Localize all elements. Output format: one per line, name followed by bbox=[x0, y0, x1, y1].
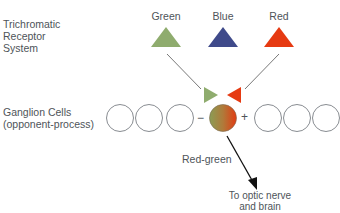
receptor-triangle-red bbox=[264, 27, 294, 47]
ganglion-cell bbox=[167, 105, 194, 132]
ganglion-cell bbox=[255, 105, 282, 132]
excite-triangle-red bbox=[227, 87, 241, 103]
connector-green bbox=[167, 54, 201, 89]
ganglion-cell bbox=[284, 105, 311, 132]
red-green-label: Red-green bbox=[182, 153, 232, 165]
diagram-canvas bbox=[0, 0, 340, 213]
receptor-triangle-green bbox=[151, 27, 181, 47]
output-label-line: and brain bbox=[215, 201, 305, 212]
receptor-triangle-blue bbox=[208, 27, 238, 47]
red-green-ganglion-cell bbox=[210, 105, 237, 132]
output-label-line: To optic nerve bbox=[215, 190, 305, 201]
ganglion-cell bbox=[313, 105, 340, 132]
connector-red bbox=[245, 54, 279, 89]
inhibit-triangle-green bbox=[204, 87, 218, 103]
output-label: To optic nerve and brain bbox=[215, 190, 305, 212]
plus-sign: + bbox=[241, 111, 248, 123]
minus-sign: − bbox=[197, 112, 204, 124]
output-arrow-head bbox=[248, 177, 257, 190]
ganglion-cell bbox=[107, 105, 134, 132]
ganglion-cell bbox=[136, 105, 163, 132]
